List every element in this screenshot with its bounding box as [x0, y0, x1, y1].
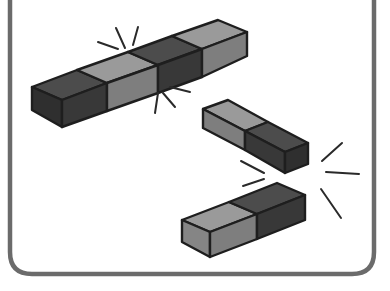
illustration-panel: Magnetic blocks snapping together — [0, 0, 390, 291]
lower-block — [182, 183, 305, 257]
upper-right-block — [203, 100, 308, 173]
blocks-illustration — [0, 0, 390, 291]
